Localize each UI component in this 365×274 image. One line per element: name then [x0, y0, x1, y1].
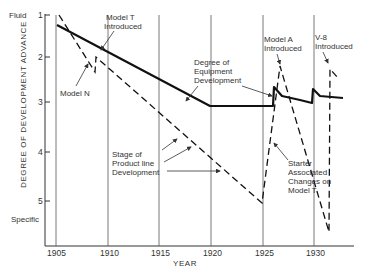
- model-n-label: Model N: [60, 89, 90, 98]
- stage-label-1: Stage of: [112, 150, 143, 159]
- fluid-label: Fluid: [9, 11, 26, 20]
- chart: 1 2 3 4 5 Fluid Specific DEGREE OF DEVEL…: [0, 0, 365, 274]
- starter-label-4: Model T: [288, 186, 317, 195]
- stage-label-3: Development: [112, 168, 160, 177]
- y-tick-1: 1: [38, 10, 43, 20]
- y-tick-3: 3: [38, 97, 43, 107]
- model-a-label: Model A: [264, 35, 294, 44]
- x-tick-1905: 1905: [47, 248, 66, 258]
- x-tick-1920: 1920: [203, 248, 222, 258]
- x-tick-1925: 1925: [255, 248, 274, 258]
- stage-label-2: Product line: [112, 159, 155, 168]
- equipment-label-2: Equipment: [194, 67, 233, 76]
- v8-label: V-8: [315, 33, 328, 42]
- y-tick-5: 5: [38, 196, 43, 206]
- x-axis-label: YEAR: [173, 259, 197, 268]
- v8-label-2: Introduced: [315, 42, 353, 51]
- model-a-label-2: Introduced: [264, 44, 302, 53]
- specific-label: Specific: [11, 215, 39, 224]
- y-tick-4: 4: [38, 147, 43, 157]
- model-t-label-2: Introduced: [104, 22, 142, 31]
- axes: [45, 14, 354, 246]
- starter-label-3: Changes on: [288, 177, 331, 186]
- model-t-label: Model T: [106, 13, 135, 22]
- starter-label-1: Starter: [288, 159, 312, 168]
- x-tick-1915: 1915: [151, 248, 170, 258]
- equipment-label-3: Development: [194, 76, 242, 85]
- y-axis-label: DEGREE OF DEVELOPMENT ADVANCE: [19, 21, 28, 188]
- x-tick-1930: 1930: [306, 248, 325, 258]
- starter-label-2: Associated: [288, 168, 327, 177]
- x-tick-1910: 1910: [100, 248, 119, 258]
- equipment-label-1: Degree of: [194, 58, 230, 67]
- y-tick-2: 2: [38, 52, 43, 62]
